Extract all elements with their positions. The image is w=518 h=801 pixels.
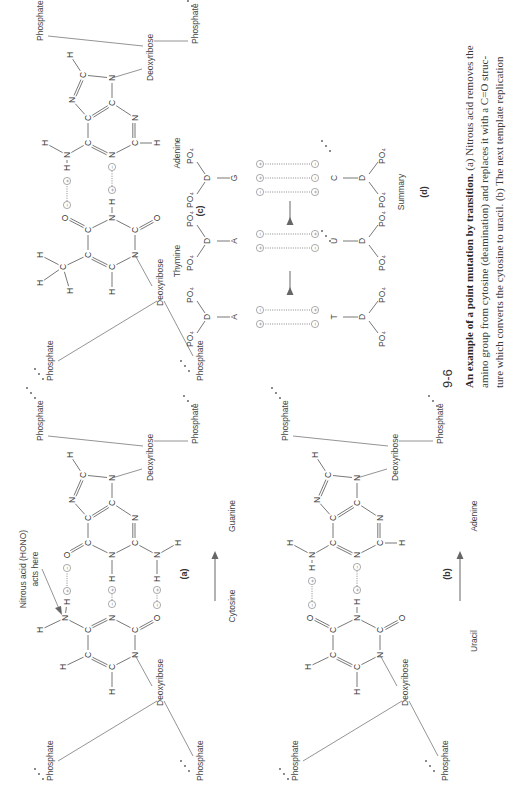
- ellipsis-icon: [184, 765, 186, 767]
- sugar-letter: D: [202, 238, 212, 244]
- minus-sign: −: [312, 162, 318, 166]
- phosphate-label: Phosphate: [195, 340, 205, 381]
- atom-h: H: [307, 565, 317, 571]
- atom-h: H: [152, 576, 162, 582]
- bond: [116, 506, 131, 516]
- phosphate-label: Phosphate: [190, 403, 200, 444]
- phosphate-group: PO₄: [377, 192, 387, 208]
- atom-c: C: [78, 72, 88, 78]
- atom-c: C: [328, 652, 338, 658]
- bond: [44, 257, 58, 264]
- glycosidic-bond: [135, 255, 152, 286]
- bond: [116, 257, 130, 264]
- ellipsis-icon: [187, 0, 189, 2]
- atom-h: H: [65, 288, 75, 294]
- atom-h: H: [152, 140, 162, 146]
- backbone-line: [48, 436, 143, 446]
- atom-h: H: [40, 140, 50, 146]
- minus-sign: −: [309, 603, 315, 607]
- deoxyribose-label: Deoxyribose: [155, 658, 165, 706]
- deoxyribose-label: Deoxyribose: [155, 258, 165, 306]
- phosphate-group: PO₄: [377, 255, 387, 271]
- bond: [116, 106, 131, 116]
- ellipsis-icon: [428, 395, 430, 397]
- panel-d-label: (d): [419, 186, 429, 198]
- ellipsis-icon: [38, 373, 40, 375]
- atom-c: C: [328, 515, 338, 521]
- ellipsis-icon: [275, 392, 277, 394]
- bond: [44, 270, 59, 280]
- atom-n: N: [130, 515, 140, 521]
- arrowhead-icon: [55, 606, 62, 615]
- glycosidic-bond: [112, 469, 142, 478]
- plus-sign: +: [257, 176, 263, 180]
- atom-h: H: [310, 452, 320, 458]
- phosphate-group: PO₄: [377, 287, 387, 303]
- backbone-line: [48, 36, 143, 46]
- label-uracil: Uracil: [469, 630, 479, 652]
- deoxyribose-label: Deoxyribose: [145, 33, 155, 81]
- atom-c: C: [58, 264, 68, 270]
- ellipsis-icon: [287, 778, 289, 780]
- atom-n: N: [67, 97, 77, 103]
- atom-h: H: [62, 165, 72, 171]
- atom-c: C: [323, 472, 333, 478]
- sugar-phosphate-bond: [197, 182, 205, 194]
- bond: [116, 657, 130, 664]
- minus-sign: −: [109, 602, 115, 606]
- atom-o: O: [305, 614, 315, 621]
- atom-n: N: [307, 552, 317, 558]
- bond: [88, 76, 107, 78]
- arrowhead-icon: [457, 551, 464, 559]
- label-cytosine: Cytosine: [227, 589, 237, 622]
- label-thymine: Thymine: [172, 244, 182, 277]
- plus-sign: +: [309, 579, 315, 583]
- atom-c: C: [130, 627, 140, 633]
- sugar-letter: D: [357, 314, 367, 320]
- ellipsis-icon: [191, 5, 193, 7]
- annotation-nitrous-acid: Nitrous acid (HONO): [18, 530, 28, 609]
- bond: [139, 545, 152, 552]
- ellipsis-icon: [271, 387, 273, 389]
- atom-h: H: [65, 452, 75, 458]
- backbone-line: [164, 301, 193, 356]
- minus-sign: −: [64, 566, 70, 570]
- bond: [45, 620, 61, 628]
- atom-n: N: [107, 615, 117, 621]
- atom-n: N: [107, 152, 117, 158]
- figure-9-6: Cytosine Guanine (a) Nitrous acid (HONO)…: [0, 0, 518, 801]
- bond: [73, 59, 81, 71]
- annotation-acts-here: acts here: [30, 551, 40, 586]
- atom-c: C: [328, 540, 338, 546]
- backbone-line: [58, 701, 157, 761]
- sugar-phosphate-bond: [369, 245, 378, 257]
- atom-n: N: [375, 515, 385, 521]
- plus-sign: +: [312, 232, 318, 236]
- atom-h: H: [35, 627, 45, 633]
- caption-line-2: amino group from cytosine (deamination) …: [478, 56, 490, 388]
- atom-o: O: [152, 214, 162, 221]
- glycosidic-bond: [135, 655, 152, 686]
- backbone-line: [164, 701, 193, 756]
- atom-h: H: [352, 689, 362, 695]
- phosphate-label: Phosphate: [435, 403, 445, 444]
- phosphate-group: PO₄: [185, 192, 195, 208]
- ellipsis-icon: [188, 370, 190, 372]
- atom-n: N: [62, 152, 72, 158]
- phosphate-group: PO₄: [377, 331, 387, 347]
- minus-sign: −: [257, 232, 263, 236]
- backbone-line: [58, 301, 157, 361]
- backbone-line: [303, 701, 402, 761]
- phosphate-label: Phosphate: [440, 740, 450, 781]
- ellipsis-icon: [180, 360, 182, 362]
- atom-h: H: [303, 664, 313, 670]
- panel-b-label: (b): [442, 568, 452, 580]
- minus-sign: −: [312, 176, 318, 180]
- atom-n: N: [312, 497, 322, 503]
- atom-h: H: [285, 540, 295, 546]
- atom-h: H: [65, 52, 75, 58]
- ellipsis-icon: [432, 400, 434, 402]
- atom-c: C: [107, 664, 117, 670]
- minus-sign: −: [257, 308, 263, 312]
- phosphate-group: PO₄: [185, 211, 195, 227]
